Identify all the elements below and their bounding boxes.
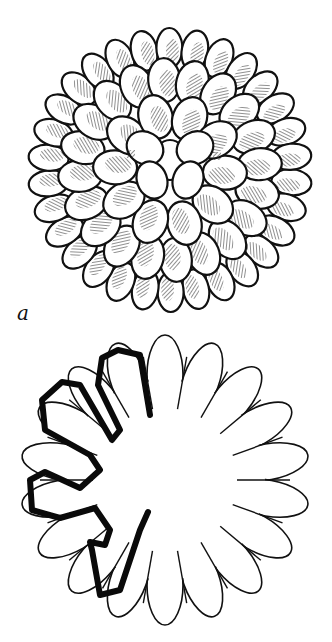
figure-panel-b: b [0,330,332,642]
figure-panel-a: a [0,0,332,330]
panel-label-a: a [17,301,29,325]
particle-surface-illustration [0,0,332,330]
particle-cross-section-illustration [0,330,332,642]
